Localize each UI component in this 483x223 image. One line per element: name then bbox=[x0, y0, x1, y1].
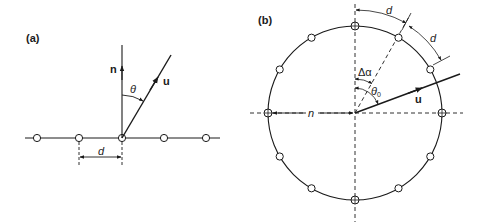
ring-element bbox=[427, 66, 434, 73]
theta-arc bbox=[122, 95, 143, 101]
delta-alpha-arc bbox=[355, 79, 372, 84]
ring-element bbox=[395, 185, 402, 192]
radius-label: n bbox=[308, 107, 314, 119]
ring-element bbox=[395, 34, 402, 41]
theta0-label: θ0 bbox=[371, 85, 381, 98]
ring-element bbox=[427, 153, 434, 160]
ring-element bbox=[308, 34, 315, 41]
spacing-label: d bbox=[98, 145, 105, 157]
arc-spacing-label-1: d bbox=[386, 4, 393, 16]
arc-dimension-1 bbox=[356, 10, 406, 23]
ring-element bbox=[308, 185, 315, 192]
array-element bbox=[202, 134, 209, 141]
arc-spacing-label-2: d bbox=[430, 32, 437, 44]
direction-label: u bbox=[163, 75, 170, 87]
direction-label: u bbox=[415, 93, 422, 105]
direction-vector-line bbox=[122, 55, 171, 138]
array-element bbox=[75, 134, 82, 141]
panel-b-label: (b) bbox=[258, 14, 272, 26]
array-element bbox=[160, 134, 167, 141]
panel-b: (b) bbox=[250, 4, 463, 222]
ring-element bbox=[276, 153, 283, 160]
arc-dimension-2 bbox=[409, 26, 441, 60]
direction-arrowhead bbox=[150, 77, 158, 90]
normal-label: n bbox=[110, 63, 117, 75]
array-element bbox=[33, 134, 40, 141]
figure-canvas: (a) n u θ d (b) bbox=[0, 0, 483, 223]
delta-alpha-label: Δα bbox=[358, 66, 372, 78]
theta-label: θ bbox=[130, 83, 136, 95]
panel-a-label: (a) bbox=[26, 32, 40, 44]
ring-element bbox=[276, 66, 283, 73]
arc-tick-2 bbox=[433, 56, 450, 65]
panel-a: (a) n u θ d bbox=[25, 32, 220, 166]
